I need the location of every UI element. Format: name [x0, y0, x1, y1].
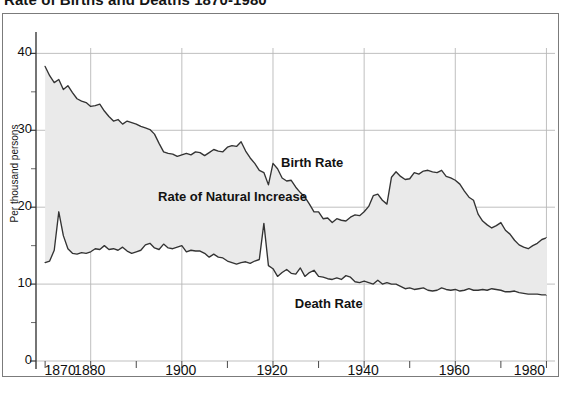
- y-tick-label-40: 40: [6, 45, 32, 58]
- x-tick-label-1980: 1980: [514, 363, 545, 377]
- x-tick-label-1900: 1900: [165, 363, 196, 377]
- x-axis-labels: 1870188019001920194019601980: [0, 361, 583, 383]
- x-tick-label-1940: 1940: [348, 363, 379, 377]
- annotation-birth-rate: Birth Rate: [281, 155, 343, 170]
- page-title: Rate of Births and Deaths 1870-1980: [4, 0, 267, 8]
- annotation-rate-of-natural-increase: Rate of Natural Increase: [158, 189, 307, 204]
- annotation-death-rate: Death Rate: [295, 296, 363, 311]
- natural-increase-area: [45, 66, 546, 294]
- x-tick-label-1880: 1880: [74, 363, 105, 377]
- y-tick-label-10: 10: [6, 276, 32, 289]
- x-tick-label-1960: 1960: [439, 363, 470, 377]
- x-tick-label-1870: 1870: [45, 363, 76, 377]
- x-tick-label-1920: 1920: [256, 363, 287, 377]
- y-axis-title: Per thousand persons: [9, 114, 20, 234]
